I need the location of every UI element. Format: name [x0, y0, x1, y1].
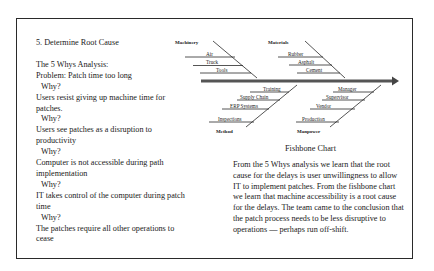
why-prompt: Why? — [36, 213, 186, 224]
five-whys-panel: 5. Determine Root Cause The 5 Whys Analy… — [36, 38, 186, 245]
cause-tools: Tools — [216, 67, 227, 73]
cause-truck: Truck — [206, 59, 219, 65]
cause-cement: Cement — [306, 67, 323, 73]
category-materials: Materials — [268, 40, 289, 45]
cause-production: Production — [302, 116, 325, 122]
cause-manager: Manager — [338, 86, 357, 92]
fishbone-spine — [201, 80, 393, 83]
answer-1: Users resist giving up machine time for … — [36, 93, 186, 115]
cause-supply-chain: Supply Chain — [240, 94, 269, 100]
cause-air: Air — [206, 51, 213, 57]
answer-4: IT takes control of the computer during … — [36, 191, 186, 213]
cause-rubber: Rubber — [288, 51, 304, 57]
analysis-title: The 5 Whys Analysis: — [36, 60, 186, 71]
why-prompt: Why? — [36, 82, 186, 93]
category-manpower: Manpower — [297, 129, 321, 134]
category-machinery: Machinery — [175, 40, 199, 45]
cause-asphalt: Asphalt — [298, 59, 315, 65]
problem-statement: Problem: Patch time too long — [36, 71, 186, 82]
why-prompt: Why? — [36, 180, 186, 191]
why-prompt: Why? — [36, 114, 186, 125]
category-method: Method — [216, 129, 233, 134]
why-prompt: Why? — [36, 147, 186, 158]
step-heading: 5. Determine Root Cause — [36, 38, 186, 49]
answer-2: Users see patches as a disruption to pro… — [36, 125, 186, 147]
answer-3: Computer is not accessible during path i… — [36, 158, 186, 180]
cause-erp-systems: ERP Systems — [230, 103, 258, 109]
spine-arrowhead-icon — [392, 77, 399, 86]
cause-training: Training — [263, 86, 281, 92]
conclusion-text: From the 5 Whys analysis we learn that t… — [233, 160, 405, 236]
answer-5: The patches require all other operations… — [36, 224, 186, 246]
cause-inspections: Inspections — [218, 116, 242, 122]
cause-supervisor: Supervisor — [326, 94, 349, 100]
fishbone-caption: Fishbone Chart — [285, 144, 336, 153]
fishbone-diagram: Machinery Air Truck Tools Materials Rubb… — [170, 35, 410, 135]
cause-vendor: Vendor — [316, 103, 331, 109]
